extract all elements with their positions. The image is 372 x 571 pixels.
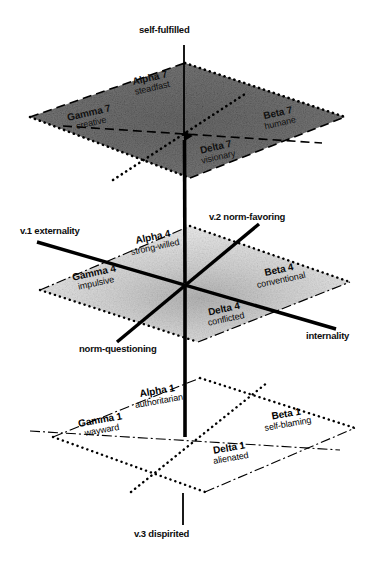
axis-label-externality: v.1 externality xyxy=(20,225,80,236)
axis-label-norm-favoring: v.2 norm-favoring xyxy=(209,211,285,222)
axis-label-self-fulfilled: self-fulfilled xyxy=(139,24,190,35)
diagram-canvas: self-fulfilled v.1 externality v.2 norm-… xyxy=(0,0,372,571)
axis-label-internality: internality xyxy=(306,330,349,341)
axis-label-dispirited: v.3 dispirited xyxy=(134,528,189,539)
axis-label-norm-questioning: norm-questioning xyxy=(79,343,157,354)
